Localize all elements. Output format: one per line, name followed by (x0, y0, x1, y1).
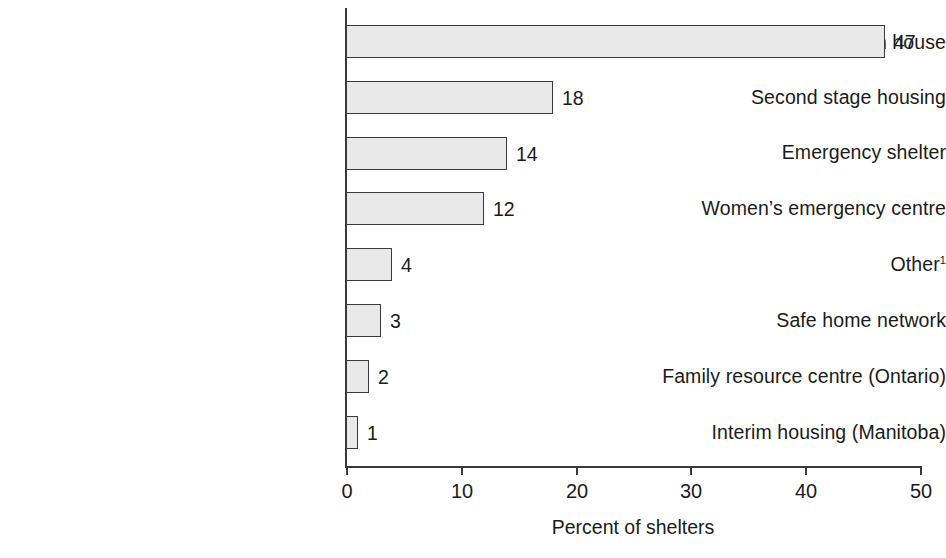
category-label: Interim housing (Manitoba) (616, 423, 946, 443)
y-axis-line (345, 8, 347, 467)
bar (346, 25, 885, 58)
x-axis-tick-label: 20 (566, 481, 588, 501)
x-axis-tick (346, 466, 348, 475)
x-axis-tick (576, 466, 578, 475)
category-label-text: Second stage housing (751, 86, 946, 108)
x-axis-title: Percent of shelters (552, 518, 715, 538)
bar-chart: Transition house Second stage housing Em… (0, 0, 946, 558)
bar-value-label: 12 (493, 200, 515, 220)
category-label-text: Women’s emergency centre (702, 197, 946, 219)
bar (346, 360, 369, 393)
bar-value-label: 2 (378, 368, 389, 388)
bar-value-label: 3 (390, 312, 401, 332)
category-label: Safe home network (616, 311, 946, 331)
bar (346, 248, 392, 281)
bar (346, 81, 553, 114)
bar (346, 192, 484, 225)
x-axis-tick-label: 50 (910, 481, 932, 501)
x-axis-tick (805, 466, 807, 475)
bar (346, 304, 381, 337)
category-label: Women’s emergency centre (616, 199, 946, 219)
category-label: Other1 (616, 255, 946, 275)
category-label-text: Safe home network (776, 309, 946, 331)
x-axis-tick-label: 30 (680, 481, 702, 501)
category-footnote-marker: 1 (940, 254, 946, 266)
x-axis-line (345, 466, 921, 468)
x-axis-tick-label: 40 (795, 481, 817, 501)
category-label-text: Emergency shelter (782, 141, 946, 163)
category-label-text: Family resource centre (Ontario) (662, 365, 946, 387)
x-axis-tick (461, 466, 463, 475)
bar (346, 416, 358, 449)
category-label: Family resource centre (Ontario) (616, 367, 946, 387)
category-label: Emergency shelter (616, 143, 946, 163)
bar-value-label: 14 (516, 145, 538, 165)
category-label: Second stage housing (616, 88, 946, 108)
x-axis-tick-label: 10 (451, 481, 473, 501)
x-axis-tick (920, 466, 922, 475)
x-axis-tick-label: 0 (341, 481, 352, 501)
bar-value-label: 4 (401, 256, 412, 276)
bar (346, 137, 507, 170)
category-label-text: Interim housing (Manitoba) (711, 421, 946, 443)
bar-value-label: 1 (367, 424, 378, 444)
bar-value-label: 18 (562, 89, 584, 109)
x-axis-tick (690, 466, 692, 475)
bar-value-label: 47 (894, 33, 916, 53)
category-label-text: Other (891, 253, 940, 275)
